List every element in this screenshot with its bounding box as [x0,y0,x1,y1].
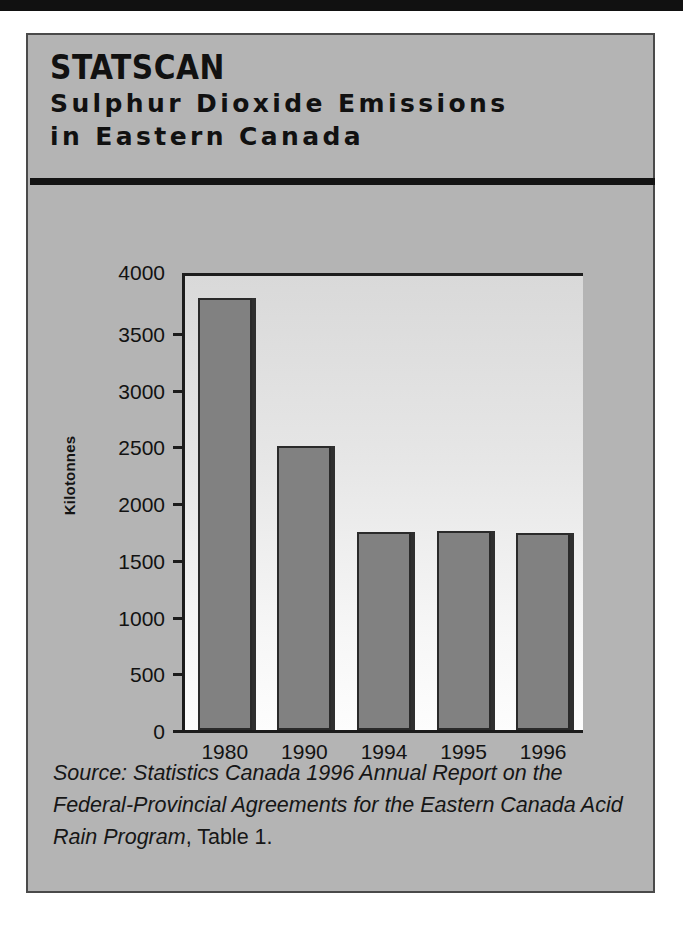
y-axis-tick-label: 500 [130,663,165,687]
y-axis-tick: 1000 [173,617,185,620]
caption-roman: , Table 1. [186,825,273,849]
y-axis-tick-label: 4000 [118,261,165,285]
bar: 1995 [437,531,491,730]
y-axis-tick-label: 2000 [118,493,165,517]
y-axis-tick: 0 [173,730,185,733]
y-axis-tick: 2500 [173,446,185,449]
y-axis-tick: 3000 [173,390,185,393]
bar-slot: 1980 [185,276,265,730]
source-caption: Source: Statistics Canada 1996 Annual Re… [53,757,628,853]
caption-italic: Source: Statistics Canada 1996 Annual Re… [53,761,623,849]
bar-slot: 1994 [344,276,424,730]
y-axis-tick: 1500 [173,560,185,563]
y-axis-label: Kilotonnes [61,411,78,541]
bar: 1990 [277,446,331,730]
bar-chart: Kilotonnes 05001000150020002500300035004… [28,187,653,737]
top-black-bar [0,0,683,11]
y-axis-tick: 2000 [173,503,185,506]
plot-area: 05001000150020002500300035004000 1980199… [182,273,583,733]
page-title-line-1: Sulphur Dioxide Emissions [50,87,653,120]
statscan-panel: StatScan Sulphur Dioxide Emissions in Ea… [26,33,655,893]
header-divider [30,178,655,185]
bar: 1980 [198,298,252,730]
y-axis-tick: 500 [173,673,185,676]
bar-slot: 1996 [503,276,583,730]
bar-slot: 1990 [265,276,345,730]
y-axis-tick: 3500 [173,333,185,336]
y-axis-tick-label: 0 [153,720,165,744]
y-axis-tick-label: 1500 [118,550,165,574]
brand-title: StatScan [50,49,653,87]
y-axis-tick-label: 2500 [118,436,165,460]
y-axis-tick-label: 3500 [118,323,165,347]
page-title-line-2: in Eastern Canada [50,120,653,153]
y-axis-tick-label: 3000 [118,380,165,404]
bar-series: 19801990199419951996 [185,276,583,730]
bar: 1996 [516,533,570,730]
panel-header: StatScan Sulphur Dioxide Emissions in Ea… [28,35,653,153]
bar: 1994 [357,532,411,730]
bar-slot: 1995 [424,276,504,730]
y-axis-tick-label: 1000 [118,607,165,631]
